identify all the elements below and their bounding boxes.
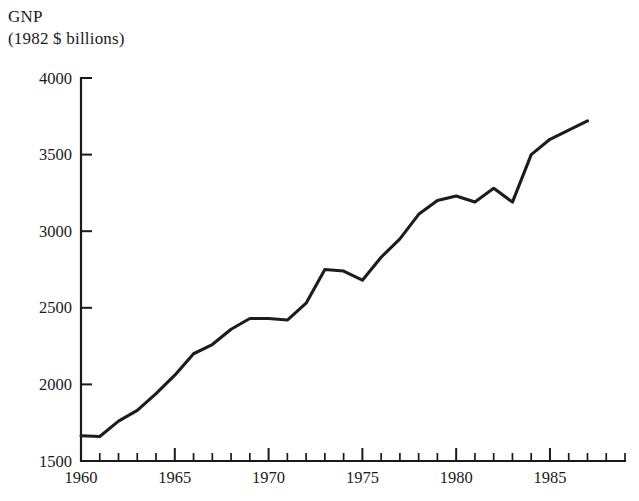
y-axis-tick-label: 2500 xyxy=(39,298,72,317)
tick-marks-group xyxy=(81,78,625,461)
y-axis-tick-label: 4000 xyxy=(39,69,72,88)
x-axis-tick-label: 1960 xyxy=(65,468,98,487)
y-axis-tick-label: 2000 xyxy=(39,375,72,394)
y-axis-tick-labels: 400035003000250020001500 xyxy=(39,69,72,471)
x-axis-tick-label: 1980 xyxy=(440,468,473,487)
x-axis-tick-label: 1985 xyxy=(533,468,566,487)
x-axis-tick-label: 1975 xyxy=(346,468,379,487)
gnp-series-line xyxy=(81,121,587,437)
y-axis-tick-label: 3000 xyxy=(39,222,72,241)
chart-page: GNP (1982 $ billions) 400035003000250020… xyxy=(0,0,639,501)
data-series-group xyxy=(81,121,587,437)
x-axis-tick-label: 1965 xyxy=(158,468,191,487)
x-axis-tick-label: 1970 xyxy=(252,468,285,487)
axis-spines xyxy=(81,78,625,461)
axes-group xyxy=(81,78,625,461)
line-chart-plot: 400035003000250020001500 196019651970197… xyxy=(0,0,639,501)
x-axis-tick-labels: 196019651970197519801985 xyxy=(65,468,567,487)
y-axis-tick-label: 3500 xyxy=(39,145,72,164)
